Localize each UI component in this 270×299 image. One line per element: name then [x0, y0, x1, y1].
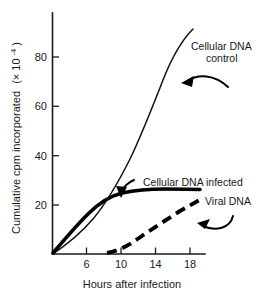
y-tick-label-20: 20 [35, 199, 47, 211]
y-axis-units-suffix: ) [10, 42, 22, 46]
y-tick-label-80: 80 [35, 51, 47, 63]
y-tick-label-60: 60 [35, 100, 47, 112]
annotation-control-line2: control [206, 52, 238, 64]
x-axis-ticks [87, 248, 191, 255]
series-cellular-dna-infected [53, 189, 200, 253]
x-axis-title: Hours after infection [83, 278, 181, 290]
y-axis-title-group: Cumulative cpm incorporated (× 10 -4 ) [6, 42, 22, 234]
y-axis-title: Cumulative cpm incorporated (× 10 -4 ) [6, 42, 22, 234]
chart-canvas: 80 60 40 20 6 10 14 18 Hours after infec… [0, 0, 270, 299]
y-tick-labels: 80 60 40 20 [35, 51, 47, 211]
annotation-viral-label: Viral DNA [205, 195, 251, 207]
series-viral-dna [107, 198, 203, 253]
axes-group [53, 13, 206, 254]
x-tick-label-10: 10 [115, 258, 127, 270]
y-axis-title-main: Cumulative cpm incorporated [10, 91, 22, 234]
x-tick-label-18: 18 [184, 258, 196, 270]
annotation-infected-label: Cellular DNA infected [143, 176, 243, 188]
series-cellular-dna-control [53, 29, 194, 254]
y-axis-ticks [53, 57, 60, 205]
annotation-control-arrow-head [181, 76, 194, 87]
y-axis-units-exponent: -4 [9, 49, 18, 56]
y-tick-label-40: 40 [35, 150, 47, 162]
x-tick-label-14: 14 [149, 258, 161, 270]
annotation-control-line1: Cellular DNA [191, 40, 252, 52]
x-tick-label-6: 6 [83, 258, 89, 270]
y-axis-units-prefix: (× 10 [10, 58, 22, 83]
annotation-viral-dna: Viral DNA [197, 195, 251, 229]
figure-container: 80 60 40 20 6 10 14 18 Hours after infec… [0, 0, 270, 299]
x-tick-labels: 6 10 14 18 [83, 258, 196, 270]
annotation-cellular-dna-control: Cellular DNA control [181, 40, 252, 87]
